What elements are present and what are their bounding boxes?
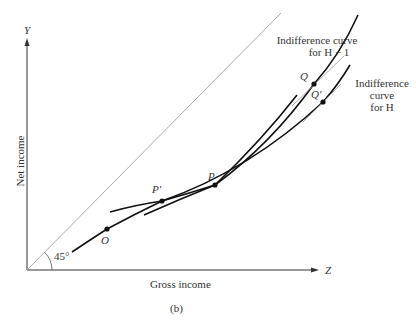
label-h: Indifference curve for H bbox=[346, 77, 416, 113]
label-o: O bbox=[101, 234, 109, 246]
label-h-minus-1: Indifference curve for H − 1 bbox=[258, 34, 376, 58]
label-q: Q bbox=[300, 70, 308, 82]
y-axis-symbol: Y bbox=[24, 24, 30, 36]
label-h-minus-1-line2: for H − 1 bbox=[258, 46, 376, 58]
point-q bbox=[311, 81, 316, 86]
angle-arc bbox=[45, 252, 52, 270]
label-p-prime: P' bbox=[152, 183, 161, 195]
x-axis-symbol: Z bbox=[325, 264, 331, 276]
point-p-prime bbox=[159, 198, 164, 203]
point-q-prime bbox=[320, 99, 325, 104]
x-axis-arrow-icon bbox=[311, 268, 319, 273]
label-h-minus-1-line1: Indifference curve bbox=[258, 34, 376, 46]
point-p bbox=[212, 182, 217, 187]
figure-caption: (b) bbox=[170, 302, 183, 314]
label-p: P bbox=[208, 170, 215, 182]
label-h-line2: curve bbox=[346, 89, 416, 101]
label-q-prime: Q' bbox=[311, 88, 321, 100]
x-axis-label: Gross income bbox=[150, 278, 211, 290]
angle-label: 45° bbox=[54, 250, 69, 262]
label-h-line3: for H bbox=[346, 101, 416, 113]
label-h-line1: Indifference bbox=[346, 77, 416, 89]
45-degree-line bbox=[27, 13, 281, 270]
point-o bbox=[104, 226, 109, 231]
y-axis-arrow-icon bbox=[25, 38, 30, 46]
y-axis-label: Net income bbox=[14, 131, 26, 191]
